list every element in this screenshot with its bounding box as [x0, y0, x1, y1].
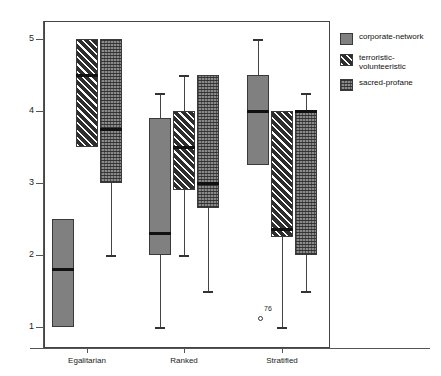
y-tick-label: 3 [14, 178, 34, 187]
legend-label: corporate-network [359, 32, 440, 41]
y-tick-label: 4 [14, 106, 34, 115]
median-line [295, 110, 317, 113]
whisker-lower [160, 255, 161, 327]
median-line [100, 128, 122, 131]
whisker-cap-upper [179, 75, 189, 77]
y-axis-line [43, 21, 44, 348]
y-tick-mark [36, 327, 43, 328]
legend-swatch-solid-icon [340, 33, 353, 45]
legend-label: terroristic-volunteeristic [359, 53, 440, 71]
y-tick-mark [36, 111, 43, 112]
box-sacred-profane-stratified [295, 111, 317, 255]
whisker-lower [208, 208, 209, 291]
legend-label: sacred-profane [359, 78, 440, 87]
median-line [173, 146, 195, 149]
chart-legend: corporate-network terroristic-volunteeri… [340, 32, 440, 99]
x-tick-mark [87, 348, 88, 353]
outlier-point [258, 316, 263, 321]
box-terroristic-volunteeristic-stratified [271, 111, 293, 237]
box-terroristic-volunteeristic-ranked [173, 111, 195, 190]
legend-item-terroristic-volunteeristic: terroristic-volunteeristic [340, 53, 440, 71]
boxplot-chart: 12345 EgalitarianRankedStratified 76 cor… [0, 0, 441, 376]
whisker-lower [282, 237, 283, 327]
median-line [197, 182, 219, 185]
x-tick-label-egalitarian: Egalitarian [47, 356, 127, 365]
box-corporate-network-stratified [247, 75, 269, 165]
whisker-upper [184, 75, 185, 111]
whisker-cap-lower [277, 327, 287, 329]
median-line [271, 228, 293, 231]
median-line [76, 74, 98, 77]
legend-swatch-dot-icon [340, 79, 353, 91]
y-tick-label: 5 [14, 34, 34, 43]
whisker-upper [258, 39, 259, 75]
box-sacred-profane-ranked [197, 75, 219, 208]
whisker-cap-lower [301, 291, 311, 293]
x-axis-line [30, 348, 430, 349]
y-tick-mark [36, 183, 43, 184]
whisker-cap-lower [155, 327, 165, 329]
whisker-upper [306, 93, 307, 111]
legend-swatch-hatch-icon [340, 54, 353, 66]
whisker-cap-lower [203, 291, 213, 293]
whisker-lower [111, 183, 112, 255]
whisker-cap-upper [253, 39, 263, 41]
median-line [247, 110, 269, 113]
box-sacred-profane-egalitarian [100, 39, 122, 183]
whisker-cap-lower [106, 255, 116, 257]
y-tick-label: 1 [14, 322, 34, 331]
whisker-lower [306, 255, 307, 291]
legend-item-corporate-network: corporate-network [340, 32, 440, 46]
x-tick-mark [282, 348, 283, 353]
whisker-lower [184, 190, 185, 255]
y-tick-mark [36, 39, 43, 40]
x-tick-mark [184, 348, 185, 353]
outlier-label: 76 [264, 305, 272, 312]
y-tick-label: 2 [14, 250, 34, 259]
whisker-upper [160, 93, 161, 118]
x-tick-label-stratified: Stratified [242, 356, 322, 365]
median-line [149, 232, 171, 235]
box-terroristic-volunteeristic-egalitarian [76, 39, 98, 147]
box-corporate-network-egalitarian [52, 219, 74, 327]
y-tick-mark [36, 255, 43, 256]
legend-item-sacred-profane: sacred-profane [340, 78, 440, 92]
x-tick-label-ranked: Ranked [144, 356, 224, 365]
median-line [52, 268, 74, 271]
whisker-cap-upper [301, 93, 311, 95]
whisker-cap-lower [179, 255, 189, 257]
whisker-cap-upper [155, 93, 165, 95]
